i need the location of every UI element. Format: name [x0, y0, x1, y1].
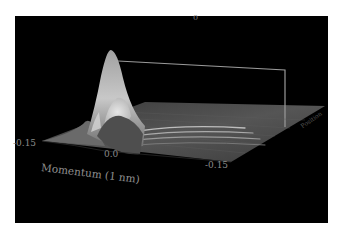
- plot-panel: 0 -0.15 0.0 -0.15 Momentum (1 nm) Positi…: [15, 16, 328, 223]
- x-tick-left: -0.15: [13, 138, 36, 148]
- x-tick-right: -0.15: [205, 160, 228, 170]
- surface-plot: [15, 16, 328, 223]
- top-tick-label: 0: [193, 13, 198, 22]
- x-tick-mid: 0.0: [104, 149, 118, 159]
